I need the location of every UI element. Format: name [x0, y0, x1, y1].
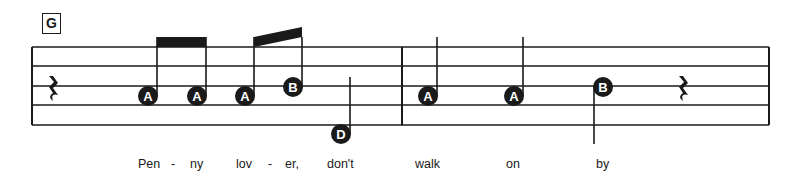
lyric-syllable: walk — [415, 157, 440, 171]
notehead-label: A — [143, 89, 153, 104]
eighth-beam — [254, 27, 302, 47]
notehead-label: D — [336, 127, 345, 142]
notehead-label: A — [192, 89, 202, 104]
lyric-syllable: don't — [327, 157, 354, 171]
lyric-syllable: Pen — [138, 157, 160, 171]
lyric-syllable: lov — [236, 157, 252, 171]
staff-notation: AAABDAAB — [0, 0, 810, 181]
lyric-syllable: ny — [190, 157, 203, 171]
lyric-syllable: on — [506, 157, 520, 171]
notehead-label: B — [598, 80, 607, 95]
quarter-rest — [679, 76, 688, 101]
lyric-syllable: er, — [285, 157, 299, 171]
notehead-label: A — [423, 89, 433, 104]
notehead-label: A — [509, 89, 519, 104]
eighth-beam — [157, 37, 206, 47]
section-marker-box: G — [42, 13, 61, 34]
lyric-hyphen: - — [268, 157, 272, 171]
lyric-hyphen: - — [171, 157, 175, 171]
quarter-rest — [49, 76, 58, 101]
notehead-label: A — [240, 89, 250, 104]
staff-lines — [32, 47, 769, 125]
notehead-label: B — [288, 80, 297, 95]
lyric-syllable: by — [596, 157, 609, 171]
